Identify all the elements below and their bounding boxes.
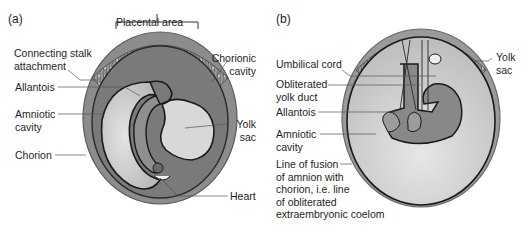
label-chorion: Chorion [15, 149, 52, 162]
label-line-of-fusion: Line of fusion of amnion with chorion, i… [276, 158, 385, 221]
yolk-sac-b [429, 54, 441, 64]
label-umbilical-cord: Umbilical cord [276, 58, 342, 71]
label-allantois-b: Allantois [276, 106, 316, 119]
label-connecting-stalk: Connecting stalk attachment [14, 47, 92, 72]
label-amniotic-cavity-b: Amniotic cavity [276, 128, 316, 153]
label-amniotic-cavity-a: Amniotic cavity [15, 108, 55, 133]
label-yolk-sac-b: Yolk sac [496, 51, 515, 76]
label-allantois-a: Allantois [15, 81, 55, 94]
label-obliterated-yolk-duct: Obliterated yolk duct [276, 78, 327, 103]
label-heart: Heart [230, 190, 256, 203]
label-chorionic-cavity: Chorionic cavity [208, 52, 256, 77]
panel-label-b: (b) [276, 12, 291, 26]
heart-shape-a [153, 163, 163, 173]
label-placental-area: Placental area [116, 16, 183, 29]
label-yolk-sac-a: Yolk sac [226, 118, 256, 143]
panel-label-a: (a) [8, 12, 23, 26]
diagram-canvas [0, 0, 532, 236]
